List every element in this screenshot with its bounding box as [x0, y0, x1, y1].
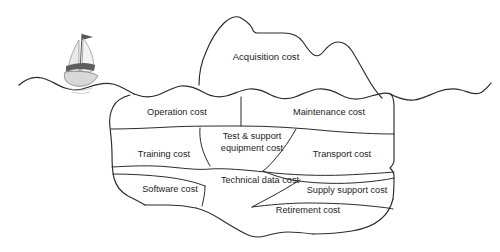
iceberg-bottom-left-outline [145, 205, 196, 208]
boat-reflection-2 [72, 92, 90, 94]
label-transport-cost: Transport cost [313, 149, 372, 159]
diagram-canvas: Acquisition cost Operation cost Maintena… [0, 0, 500, 252]
label-maintenance-cost: Maintenance cost [293, 107, 365, 117]
boat-hull [64, 71, 98, 86]
label-retirement-cost: Retirement cost [276, 205, 341, 215]
label-operation-cost: Operation cost [147, 107, 207, 117]
label-test-support-line1: Test & support [223, 131, 282, 141]
label-technical-data-cost: Technical data cost [221, 175, 300, 185]
label-supply-support-cost: Supply support cost [307, 185, 388, 195]
iceberg-cost-diagram: Acquisition cost Operation cost Maintena… [0, 0, 500, 252]
label-test-support-line2: equipment cost [221, 143, 284, 153]
sailboat-icon [64, 34, 98, 94]
waterline-right [392, 83, 491, 100]
iceberg-shape [107, 13, 394, 237]
label-software-cost: Software cost [142, 184, 198, 194]
label-acquisition-cost: Acquisition cost [233, 51, 300, 62]
label-training-cost: Training cost [138, 149, 191, 159]
iceberg-fill [107, 13, 392, 229]
